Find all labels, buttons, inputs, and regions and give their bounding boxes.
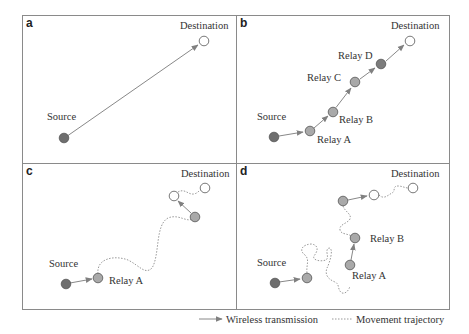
source-label: Source [47, 111, 76, 122]
panel-frame [23, 16, 450, 310]
relay-a-label: Relay A [317, 134, 352, 145]
source-node [270, 278, 280, 288]
panel-letter-c: c [26, 164, 33, 178]
destination-node [405, 36, 415, 46]
source-label: Source [49, 258, 78, 269]
relay-b-moved-node [338, 196, 348, 206]
wireless-link-arrow [360, 68, 375, 79]
relay-b-node [328, 107, 338, 117]
relay-b-label: Relay B [339, 114, 373, 125]
relay-c-label: Relay C [307, 72, 341, 83]
relay-d-label: Relay D [338, 50, 373, 61]
relay-a-moved-node [190, 212, 200, 222]
source-label: Source [257, 111, 286, 122]
destination-node [408, 183, 418, 193]
destination-previous-node [369, 190, 379, 200]
relay-b-node [350, 233, 360, 243]
panel-a: a Source Destination [26, 16, 229, 143]
source-node [61, 279, 71, 289]
destination-label: Destination [181, 168, 230, 179]
relay-a-node [305, 126, 315, 136]
wireless-link-arrow [68, 45, 198, 136]
relay-d-node [376, 59, 386, 69]
destination-label: Destination [391, 168, 440, 179]
panel-c: c Source Relay A Destination [26, 164, 230, 289]
legend: Wireless transmission Movement trajector… [199, 314, 445, 325]
source-node [269, 132, 279, 142]
panel-b: b Source Relay A Relay B Relay C Relay D… [240, 16, 440, 145]
panel-letter-d: d [240, 164, 247, 178]
legend-wireless-label: Wireless transmission [226, 314, 319, 325]
movement-trajectory [340, 206, 355, 238]
destination-previous-node [169, 191, 179, 201]
destination-label: Destination [180, 20, 229, 31]
relay-c-node [350, 77, 360, 87]
relay-b-label: Relay B [370, 233, 404, 244]
relay-a-label: Relay A [109, 275, 144, 286]
destination-node [199, 36, 209, 46]
wireless-link-arrow [70, 279, 92, 283]
source-label: Source [257, 257, 286, 268]
source-node [59, 133, 69, 143]
panel-letter-b: b [240, 16, 247, 30]
relay-diagram: a Source Destination b Source Relay A Re… [0, 0, 469, 334]
relay-node [302, 273, 312, 283]
wireless-link-arrow [279, 132, 303, 136]
wireless-link-arrow [351, 244, 354, 260]
destination-node [200, 183, 210, 193]
relay-a-node [345, 260, 355, 270]
wireless-link-arrow [336, 88, 351, 108]
relay-a-node [93, 273, 103, 283]
wireless-link-arrow [386, 45, 404, 61]
movement-trajectory [98, 217, 195, 274]
destination-label: Destination [391, 20, 440, 31]
movement-trajectory [302, 244, 350, 293]
panel-letter-a: a [26, 16, 33, 30]
wireless-link-arrow [314, 116, 328, 128]
relay-a-label: Relay A [352, 270, 387, 281]
wireless-link-arrow [178, 201, 191, 213]
legend-movement-label: Movement trajectory [356, 314, 445, 325]
wireless-link-arrow [279, 279, 300, 282]
wireless-link-arrow [348, 196, 367, 200]
panel-d: d Source Relay A Relay B Destination [240, 164, 440, 293]
